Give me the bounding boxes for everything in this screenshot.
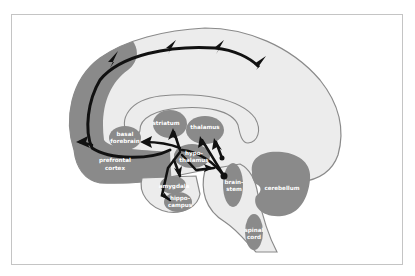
cerebellum-region bbox=[252, 152, 310, 217]
label-striatum: striatum bbox=[153, 120, 180, 126]
pathway-origin-dot bbox=[220, 156, 225, 161]
label-hippocampus: hippo-campus bbox=[168, 195, 193, 209]
label-thalamus: thalamus bbox=[190, 124, 220, 130]
label-amygdala: amygdala bbox=[159, 183, 190, 190]
label-brainstem: brain-stem bbox=[225, 179, 244, 192]
thalamus-region bbox=[186, 116, 224, 144]
brain-diagram: basalforebrain striatum thalamus hypo-th… bbox=[0, 0, 415, 276]
label-spinal-cord: spinalcord bbox=[245, 227, 264, 240]
brainstem-region bbox=[223, 163, 243, 207]
label-cerebellum: cerebellum bbox=[264, 185, 299, 191]
